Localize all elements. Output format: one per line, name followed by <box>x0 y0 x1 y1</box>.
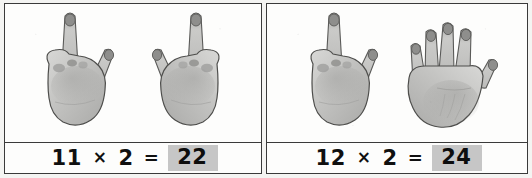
panel-left-image-cell <box>5 4 261 143</box>
hand-slot <box>25 4 133 143</box>
equals-sign: = <box>402 149 430 167</box>
hand-photo-one-finger <box>133 6 241 140</box>
panel-right: 12 × 2 = 24 <box>266 3 528 174</box>
panel-right-hands <box>267 4 527 142</box>
hand-slot <box>397 4 505 143</box>
hand-photo-four-fingers <box>397 6 505 140</box>
hand-photo-one-finger <box>289 6 397 140</box>
left-operand: 12 <box>312 148 350 169</box>
right-operand: 2 <box>379 148 402 169</box>
answer-highlight: 22 <box>168 145 218 171</box>
equation: 11 × 2 = 22 <box>48 145 219 171</box>
right-operand: 2 <box>115 148 138 169</box>
answer-highlight: 24 <box>432 145 482 171</box>
equals-sign: = <box>138 149 166 167</box>
panel-right-image-cell <box>267 4 527 143</box>
panel-left: 11 × 2 = 22 <box>4 3 262 174</box>
multiplication-operator: × <box>86 149 115 166</box>
hand-slot <box>289 4 397 143</box>
equation: 12 × 2 = 24 <box>312 145 483 171</box>
left-operand: 11 <box>48 148 86 169</box>
hand-photo-one-finger <box>25 6 133 140</box>
hand-slot <box>133 4 241 143</box>
worksheet: 11 × 2 = 22 <box>0 0 532 178</box>
panel-left-hands <box>5 4 261 142</box>
panel-left-equation-cell: 11 × 2 = 22 <box>5 143 261 173</box>
panel-right-equation-cell: 12 × 2 = 24 <box>267 143 527 173</box>
multiplication-operator: × <box>350 149 379 166</box>
